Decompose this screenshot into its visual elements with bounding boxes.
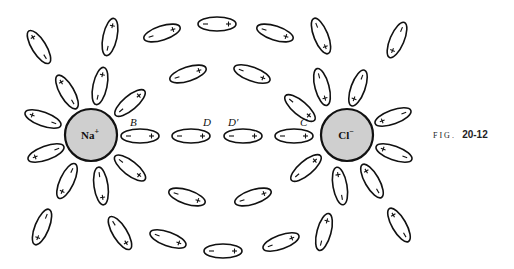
water-dipole (373, 104, 413, 130)
water-dipole (330, 166, 350, 206)
water-dipole (275, 129, 313, 143)
water-dipole (91, 166, 110, 206)
water-dipole (224, 129, 262, 143)
point-label: B (130, 116, 137, 128)
water-dipole (204, 244, 242, 258)
water-dipole (148, 226, 188, 252)
water-dipole (310, 67, 333, 107)
water-dipole (28, 207, 55, 247)
water-dipole (198, 17, 236, 31)
water-dipole (172, 129, 210, 143)
water-dipole (26, 140, 66, 166)
water-dipole (232, 61, 272, 87)
water-dipole (111, 151, 150, 185)
water-dipole (383, 205, 414, 245)
point-labels: BDD′C (130, 116, 308, 128)
water-dipole (142, 20, 182, 45)
point-label: C (300, 116, 308, 128)
caption-number: 20-12 (462, 129, 488, 140)
point-label: D (202, 116, 211, 128)
point-label: D′ (227, 116, 239, 128)
water-dipole (356, 161, 387, 201)
water-dipole (312, 212, 335, 252)
minus-sign-icon (99, 172, 100, 177)
water-dipole (99, 17, 121, 57)
water-dipole (167, 184, 207, 209)
water-dipole (23, 106, 63, 132)
water-dipole (168, 61, 208, 86)
na-ion: Na+ (65, 109, 117, 161)
water-dipole (53, 161, 82, 201)
water-dipole (255, 20, 295, 45)
water-dipole (121, 129, 159, 143)
water-dipole (89, 66, 111, 106)
water-dipole (51, 72, 82, 112)
water-dipole (104, 213, 136, 253)
water-dipole (261, 229, 301, 255)
water-dipole (233, 184, 273, 209)
caption-prefix: FIG. (433, 131, 456, 140)
ions: Na+Cl− (65, 109, 373, 161)
water-dipole (287, 150, 325, 185)
water-dipole (307, 16, 334, 56)
water-dipole (23, 27, 55, 67)
water-dipole (383, 20, 411, 60)
cl-ion: Cl− (321, 109, 373, 161)
figure-caption: FIG. 20-12 (433, 129, 488, 140)
water-dipole (345, 68, 371, 108)
water-dipole (374, 140, 414, 166)
